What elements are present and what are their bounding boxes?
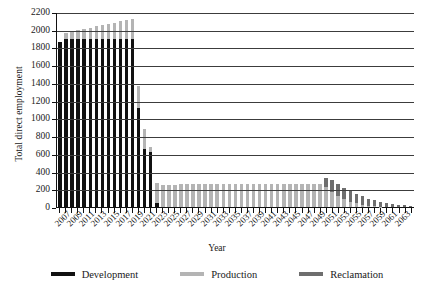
legend-item: Development bbox=[51, 269, 139, 280]
bar-segment-reclamation bbox=[342, 188, 346, 200]
bar-segment-development bbox=[107, 39, 111, 207]
bar-segment-development bbox=[95, 39, 99, 207]
bar-segment-production bbox=[155, 183, 159, 203]
y-axis-tickmark bbox=[52, 84, 56, 85]
gridline bbox=[57, 190, 414, 191]
bar-segment-production bbox=[276, 184, 280, 207]
employment-bar-chart: Total direct employment 2200200018001600… bbox=[0, 0, 434, 294]
bar-segment-production bbox=[282, 184, 286, 207]
bar-segment-production bbox=[355, 203, 359, 207]
gridline bbox=[57, 119, 414, 120]
bar-segment-production bbox=[173, 185, 177, 207]
bar-segment-production bbox=[270, 184, 274, 207]
x-axis-title: Year bbox=[0, 243, 434, 253]
bar-segment-production bbox=[137, 86, 141, 108]
y-axis-tickmark bbox=[52, 173, 56, 174]
gridline bbox=[57, 31, 414, 32]
bar-segment-development bbox=[70, 39, 74, 207]
y-axis-tickmark bbox=[52, 190, 56, 191]
bar-segment-production bbox=[306, 184, 310, 207]
y-axis-tick-label: 1400 bbox=[0, 78, 50, 88]
bar-segment-development bbox=[89, 39, 93, 207]
bar-segment-production bbox=[349, 202, 353, 207]
bar-segment-development bbox=[149, 152, 153, 207]
bar-segment-reclamation bbox=[403, 205, 407, 207]
bar-segment-production bbox=[264, 184, 268, 207]
gridline bbox=[57, 84, 414, 85]
plot-area bbox=[56, 13, 414, 208]
gridline bbox=[57, 48, 414, 49]
bar-segment-production bbox=[288, 184, 292, 207]
y-axis-tickmark bbox=[52, 119, 56, 120]
bar-segment-development bbox=[76, 39, 80, 207]
y-axis-tickmark bbox=[52, 137, 56, 138]
bar-group bbox=[408, 13, 414, 207]
gridline bbox=[57, 137, 414, 138]
bar-segment-production bbox=[222, 184, 226, 207]
y-axis-tick-label: 200 bbox=[0, 184, 50, 194]
y-axis-tick-label: 600 bbox=[0, 149, 50, 159]
bar-segment-production bbox=[185, 184, 189, 207]
bar-segment-production bbox=[197, 184, 201, 207]
bar-segment-production bbox=[300, 184, 304, 207]
gridline bbox=[57, 155, 414, 156]
x-axis-labels: 2007200920112013201520172019202120232025… bbox=[56, 213, 414, 247]
bar-segment-development bbox=[82, 39, 86, 207]
gridline bbox=[57, 173, 414, 174]
x-axis-label-slot bbox=[408, 213, 414, 247]
bar-segment-reclamation bbox=[324, 178, 328, 186]
bar-segment-development bbox=[64, 39, 68, 207]
bar-segment-development bbox=[131, 39, 135, 207]
legend-item: Reclamation bbox=[299, 269, 383, 280]
bar-segment-development bbox=[101, 39, 105, 207]
bar-segment-production bbox=[258, 184, 262, 207]
legend-label: Production bbox=[211, 269, 257, 280]
bar-segment-production bbox=[318, 184, 322, 207]
bar-segment-production bbox=[131, 19, 135, 39]
bar-segment-development bbox=[143, 149, 147, 208]
bar-segment-reclamation bbox=[349, 191, 353, 202]
bar-segment-development bbox=[125, 39, 129, 207]
bar-segment-production bbox=[342, 199, 346, 207]
legend-swatch bbox=[299, 272, 323, 277]
legend-item: Production bbox=[180, 269, 257, 280]
bar-segment-production bbox=[312, 184, 316, 207]
bar-segment-production bbox=[228, 184, 232, 207]
bar-segment-production bbox=[125, 20, 129, 39]
bar-segment-production bbox=[294, 184, 298, 207]
bar-segment-development bbox=[137, 108, 141, 207]
bar-segment-production bbox=[367, 206, 371, 207]
bar-segment-production bbox=[330, 192, 334, 207]
bar-segment-reclamation bbox=[361, 196, 365, 204]
bar-segment-production bbox=[203, 184, 207, 207]
y-axis-tick-label: 2200 bbox=[0, 7, 50, 17]
y-axis-tickmark bbox=[52, 66, 56, 67]
gridline bbox=[57, 102, 414, 103]
bar-segment-production bbox=[336, 196, 340, 207]
y-axis-tickmark bbox=[52, 13, 56, 14]
y-axis-tick-label: 800 bbox=[0, 131, 50, 141]
bar-segment-production bbox=[234, 184, 238, 207]
y-axis-tick-label: 0 bbox=[0, 202, 50, 212]
y-axis-tick-label: 400 bbox=[0, 167, 50, 177]
bar-segment-production bbox=[361, 205, 365, 207]
y-axis-tick-label: 1800 bbox=[0, 42, 50, 52]
bar-segment-production bbox=[70, 31, 74, 39]
bar-segment-production bbox=[89, 28, 93, 39]
bar-segment-production bbox=[252, 184, 256, 207]
bar-segment-production bbox=[215, 184, 219, 207]
bar-segment-production bbox=[95, 26, 99, 38]
bar-segment-production bbox=[191, 184, 195, 207]
bar-segment-production bbox=[161, 185, 165, 207]
bar-segment-development bbox=[119, 39, 123, 207]
bar-segment-reclamation bbox=[355, 194, 359, 204]
bar-segment-reclamation bbox=[397, 205, 401, 207]
bar-segment-development bbox=[155, 203, 159, 207]
bar-segment-production bbox=[101, 25, 105, 38]
bar-segment-reclamation bbox=[409, 206, 413, 207]
y-axis-tickmark bbox=[52, 31, 56, 32]
bar-segment-reclamation bbox=[385, 203, 389, 207]
bar-segment-reclamation bbox=[367, 199, 371, 206]
bar-series-container bbox=[57, 13, 414, 207]
legend-label: Reclamation bbox=[330, 269, 383, 280]
